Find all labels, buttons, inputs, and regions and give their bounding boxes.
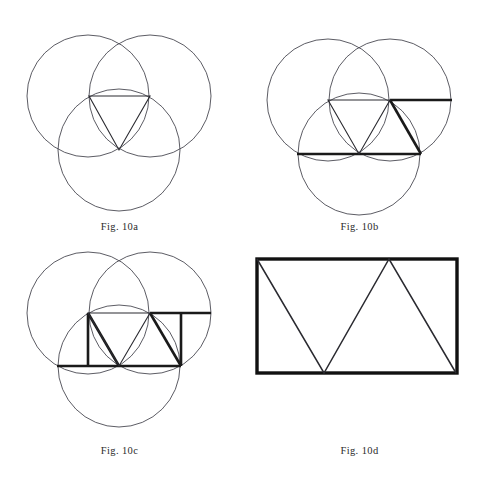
circle-group-10b (267, 39, 451, 215)
inscribed-triangle (89, 96, 150, 150)
inscribed-triangle (328, 100, 390, 154)
circle-group-10c (27, 252, 211, 427)
right-triangle-side (150, 313, 181, 366)
triangle-group-10a (89, 96, 150, 150)
figure-caption-10a: Fig. 10a (0, 221, 239, 232)
figure-10b-drawing (240, 0, 479, 240)
figure-10c-drawing (0, 240, 239, 480)
figure-caption-10b: Fig. 10b (240, 221, 479, 232)
figure-cell-10c: Fig. 10c (0, 240, 239, 480)
circle-group-10a (27, 35, 211, 211)
figure-caption-10c: Fig. 10c (0, 445, 239, 456)
zigzag-group-10d (257, 259, 456, 373)
figure-cell-10a: Fig. 10a (0, 0, 239, 240)
figure-10a-drawing (0, 0, 239, 240)
zigzag-polyline (257, 259, 456, 373)
figure-cell-10b: Fig. 10b (240, 0, 479, 240)
figure-10d-drawing (240, 240, 479, 480)
figure-caption-10d: Fig. 10d (240, 445, 479, 456)
triangle-group-10c (88, 313, 150, 366)
figure-cell-10d: Fig. 10d (240, 240, 479, 480)
triangle-group-10b (328, 100, 390, 154)
inscribed-triangle (88, 313, 150, 366)
figure-plate: Fig. 10a Fig. 10b Fig. 10c Fig. 10d (0, 0, 479, 480)
right-triangle-side (390, 100, 421, 154)
